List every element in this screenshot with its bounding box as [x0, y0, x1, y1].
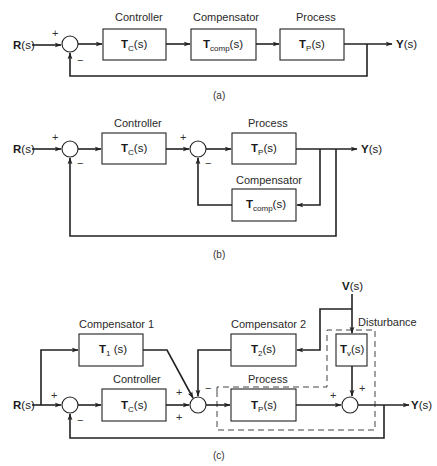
feedforward-branch	[41, 350, 78, 405]
block-title-process: Process	[248, 373, 288, 385]
summing-junction	[62, 36, 78, 52]
block-title-disturbance: Disturbance	[358, 316, 417, 328]
summing-junction-3	[342, 397, 358, 413]
compensator-2-output	[198, 350, 231, 396]
plus-sign: +	[330, 389, 336, 401]
summing-junction-2	[190, 397, 206, 413]
summing-junction-2	[190, 141, 206, 157]
plus-sign: +	[176, 386, 182, 398]
diagram-c: R(s) + − Compensator 1 T1 (s) Controller…	[13, 280, 432, 461]
block-title-controller: Controller	[115, 11, 163, 23]
block-title-controller: Controller	[114, 117, 162, 129]
input-signal-r: R(s)	[13, 39, 35, 51]
diagram-a: R(s) + − Controller TC(s) Compensator Tc…	[13, 11, 417, 101]
input-signal-r: R(s)	[13, 143, 35, 155]
minus-sign: −	[77, 414, 83, 426]
plus-sign: +	[52, 27, 58, 39]
plus-sign: +	[359, 382, 365, 394]
caption-b: (b)	[213, 249, 225, 260]
caption-a: (a)	[213, 90, 225, 101]
output-signal-y: Y(s)	[411, 399, 432, 411]
diagram-b: R(s) + − Controller TC(s) + − Process TP…	[13, 117, 382, 260]
block-diagrams: R(s) + − Controller TC(s) Compensator Tc…	[0, 0, 437, 466]
block-title-compensator: Compensator	[236, 174, 302, 186]
plus-sign: +	[52, 131, 58, 143]
compensator-feedback-path	[198, 158, 232, 205]
block-title-process: Process	[296, 11, 336, 23]
minus-sign: −	[77, 54, 83, 66]
block-title-process: Process	[248, 117, 288, 129]
output-signal-y: Y(s)	[361, 143, 382, 155]
disturbance-signal-v: V(s)	[342, 280, 363, 292]
minus-sign: −	[77, 157, 83, 169]
summing-junction-1	[62, 141, 78, 157]
caption-c: (c)	[213, 450, 225, 461]
plus-sign: +	[176, 411, 182, 423]
input-signal-r: R(s)	[13, 399, 35, 411]
minus-sign: −	[205, 157, 211, 169]
plus-sign: +	[51, 389, 57, 401]
output-signal-y: Y(s)	[396, 38, 417, 50]
block-title-controller: Controller	[113, 373, 161, 385]
minus-sign: −	[205, 382, 211, 394]
plus-sign: +	[180, 131, 186, 143]
summing-junction-1	[62, 397, 78, 413]
block-title-compensator-2: Compensator 2	[231, 318, 306, 330]
block-title-compensator-1: Compensator 1	[79, 318, 154, 330]
block-title-compensator: Compensator	[193, 11, 259, 23]
